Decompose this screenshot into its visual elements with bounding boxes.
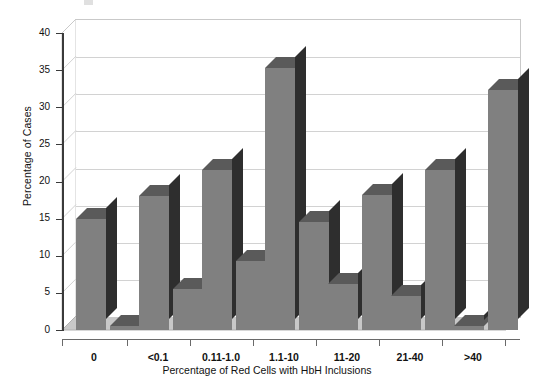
bar-s2-cat5 bbox=[425, 170, 455, 330]
bar-s1-cat4 bbox=[328, 284, 358, 330]
bar-s1-cat0 bbox=[76, 219, 106, 330]
x-tick-label-6: >40 bbox=[436, 351, 510, 363]
bar-s2-cat0 bbox=[110, 326, 140, 330]
bar-s2-cat2 bbox=[236, 261, 266, 330]
y-axis-line bbox=[62, 33, 64, 331]
bar-s1-cat1 bbox=[139, 196, 169, 330]
y-tick-label: 5 bbox=[24, 287, 50, 297]
x-tick-label-0: 0 bbox=[57, 351, 131, 363]
bar-s1-cat3 bbox=[265, 68, 295, 330]
bar-s1-cat2 bbox=[202, 170, 232, 330]
bar-s1-cat6 bbox=[454, 326, 484, 331]
y-tick-label: 0 bbox=[24, 325, 50, 335]
bar-s2-cat6 bbox=[488, 90, 518, 330]
bar-s1-cat5 bbox=[391, 296, 421, 330]
y-tick-label: 40 bbox=[24, 28, 50, 38]
x-axis-title: Percentage of Red Cells with HbH Inclusi… bbox=[0, 364, 534, 376]
bar-s2-cat3 bbox=[299, 222, 329, 330]
x-axis-line bbox=[62, 339, 520, 340]
chart-figure: 40 35 30 25 20 15 10 5 0 0 <0.1 0.11-1.0… bbox=[0, 0, 534, 383]
y-axis-title: Percentage of Cases bbox=[21, 66, 33, 246]
y-tick-label: 10 bbox=[24, 250, 50, 260]
plot-area: 40 35 30 25 20 15 10 5 0 0 <0.1 0.11-1.0… bbox=[0, 0, 534, 383]
bar-s2-cat1 bbox=[173, 289, 203, 330]
bar-s2-cat4 bbox=[362, 195, 392, 330]
